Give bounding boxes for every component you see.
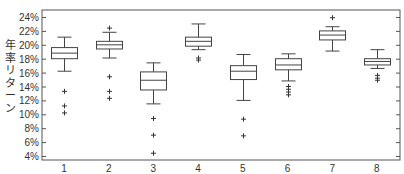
box-5	[231, 55, 257, 139]
box-6	[276, 54, 302, 98]
box-8	[365, 50, 391, 83]
x-tick-label: 6	[285, 163, 291, 174]
y-tick-label: 10%	[19, 109, 39, 120]
x-tick-label: 2	[106, 163, 112, 174]
y-tick-label: 6%	[25, 137, 40, 148]
y-axis: 4%6%8%10%12%14%16%18%20%22%24%	[19, 12, 400, 162]
iqr-box	[231, 66, 257, 80]
iqr-box	[141, 72, 167, 90]
y-tick-label: 20%	[19, 40, 39, 51]
x-tick-label: 5	[240, 163, 246, 174]
y-tick-label: 18%	[19, 54, 39, 65]
box-2	[97, 26, 123, 101]
x-tick-label: 4	[195, 163, 201, 174]
box-1	[52, 37, 78, 115]
box-3	[141, 63, 167, 156]
y-axis-title: 年率リターン	[3, 40, 17, 115]
x-axis: 12345678	[61, 163, 380, 174]
y-tick-label: 12%	[19, 95, 39, 106]
x-tick-label: 8	[374, 163, 380, 174]
y-tick-label: 14%	[19, 82, 39, 93]
box-7	[320, 15, 346, 51]
plot-frame	[42, 10, 400, 160]
iqr-box	[276, 59, 302, 70]
y-tick-label: 22%	[19, 26, 39, 37]
x-tick-label: 1	[61, 163, 67, 174]
y-tick-label: 8%	[25, 123, 40, 134]
y-tick-label: 24%	[19, 12, 39, 23]
box-plot-chart: 4%6%8%10%12%14%16%18%20%22%24% 12345678	[0, 0, 404, 174]
box-4	[186, 24, 212, 63]
y-tick-label: 4%	[25, 151, 40, 162]
box-series	[52, 15, 391, 156]
x-tick-label: 7	[329, 163, 335, 174]
y-tick-label: 16%	[19, 68, 39, 79]
x-tick-label: 3	[151, 163, 157, 174]
